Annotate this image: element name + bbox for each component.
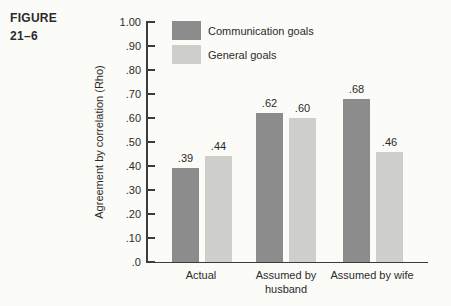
y-tick-label: .60 bbox=[99, 111, 141, 125]
bar-communication-goals bbox=[256, 113, 283, 262]
figure-21-6: FIGURE 21–6 Agreement by correlation (Rh… bbox=[0, 0, 451, 306]
bar-general-goals bbox=[376, 152, 403, 262]
bar-general-goals bbox=[205, 156, 232, 262]
y-tick-mark bbox=[148, 213, 155, 215]
category-label: Actual bbox=[159, 268, 243, 282]
y-tick-mark bbox=[148, 21, 155, 23]
y-tick-label: .70 bbox=[99, 87, 141, 101]
y-tick-label: .30 bbox=[99, 183, 141, 197]
bar-value-label: .62 bbox=[262, 96, 277, 110]
y-tick-label: .50 bbox=[99, 135, 141, 149]
category-label: Assumed by husband bbox=[244, 268, 328, 296]
bar-value-label: .39 bbox=[178, 151, 193, 165]
y-tick-mark bbox=[148, 165, 155, 167]
bar-communication-goals bbox=[172, 168, 199, 262]
legend-swatch bbox=[172, 45, 201, 64]
y-tick-mark bbox=[148, 93, 155, 95]
y-tick-mark bbox=[148, 237, 155, 239]
y-tick-label: .80 bbox=[99, 63, 141, 77]
category-label: Assumed by wife bbox=[330, 268, 414, 282]
y-tick-label: .90 bbox=[99, 39, 141, 53]
y-tick-label: 1.00 bbox=[99, 15, 141, 29]
legend-label: General goals bbox=[208, 48, 277, 62]
bar-value-label: .68 bbox=[349, 82, 364, 96]
bar-chart: Agreement by correlation (Rho) 1.00.90.8… bbox=[0, 0, 451, 306]
y-tick-mark bbox=[148, 69, 155, 71]
bar-value-label: .46 bbox=[382, 135, 397, 149]
y-tick-mark bbox=[148, 141, 155, 143]
bar-communication-goals bbox=[343, 99, 370, 262]
bar-value-label: .60 bbox=[295, 101, 310, 115]
bar-value-label: .44 bbox=[211, 139, 226, 153]
y-tick-mark bbox=[148, 117, 155, 119]
y-tick-label: .0 bbox=[99, 255, 141, 269]
y-tick-label: .10 bbox=[99, 231, 141, 245]
bar-general-goals bbox=[289, 118, 316, 262]
legend-swatch bbox=[172, 21, 201, 40]
y-tick-label: .40 bbox=[99, 159, 141, 173]
legend-label: Communication goals bbox=[208, 24, 314, 38]
y-tick-mark bbox=[148, 189, 155, 191]
y-tick-mark bbox=[148, 45, 155, 47]
y-tick-label: .20 bbox=[99, 207, 141, 221]
y-tick-mark bbox=[148, 261, 155, 263]
